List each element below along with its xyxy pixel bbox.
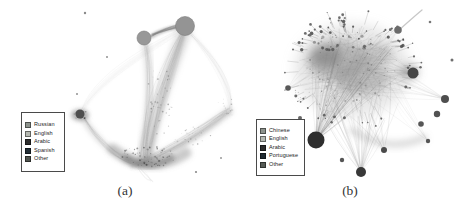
graph-node — [106, 56, 108, 58]
legend-item: English — [260, 136, 302, 142]
graph-node — [76, 93, 78, 95]
legend-label: Other — [269, 162, 283, 168]
legend-color-swatch — [260, 128, 266, 134]
network-b — [284, 10, 454, 177]
graph-node — [434, 111, 440, 117]
graph-node — [429, 21, 432, 24]
graph-node — [137, 31, 151, 45]
legend-item: Arabic — [260, 145, 302, 151]
legend-a: RussianEnglishArabicSpanishOther — [21, 112, 65, 172]
legend-label: Portuguese — [269, 153, 298, 159]
legend-color-swatch — [25, 148, 31, 154]
legend-color-swatch — [25, 139, 31, 145]
legend-item: Other — [260, 162, 302, 168]
graph-node — [408, 68, 419, 79]
legend-label: Other — [34, 156, 48, 162]
network-graphs — [0, 0, 461, 212]
graph-node — [426, 139, 430, 143]
legend-item: English — [25, 131, 62, 137]
legend-label: Chinese — [269, 128, 290, 134]
legend-label: Arabic — [34, 139, 50, 145]
legend-label: Russian — [34, 122, 55, 128]
graph-node — [76, 110, 85, 119]
graph-node — [285, 85, 291, 91]
legend-color-swatch — [260, 136, 266, 142]
caption-b: (b) — [325, 183, 375, 199]
legend-item: Russian — [25, 122, 62, 128]
legend-item: Spanish — [25, 148, 62, 154]
legend-label: English — [34, 131, 53, 137]
graph-node — [451, 59, 454, 62]
legend-label: English — [269, 136, 288, 142]
graph-node — [309, 34, 312, 37]
legend-b: ChineseEnglishArabicPortugueseOther — [256, 119, 305, 176]
legend-item: Other — [25, 156, 62, 162]
graph-node — [176, 17, 195, 36]
figure: (a) (b) RussianEnglishArabicSpanishOther… — [0, 0, 461, 212]
legend-color-swatch — [25, 156, 31, 162]
legend-label: Spanish — [34, 148, 55, 154]
graph-node — [220, 157, 222, 159]
graph-node — [418, 121, 424, 127]
graph-node — [84, 12, 86, 14]
graph-node — [441, 95, 449, 103]
graph-node — [308, 132, 325, 149]
legend-color-swatch — [260, 153, 266, 159]
legend-item: Chinese — [260, 128, 302, 134]
legend-color-swatch — [25, 131, 31, 137]
legend-label: Arabic — [269, 145, 285, 151]
legend-item: Arabic — [25, 139, 62, 145]
network-a — [71, 12, 233, 182]
caption-a: (a) — [100, 183, 150, 199]
graph-node — [394, 26, 402, 34]
graph-node — [340, 158, 344, 162]
legend-color-swatch — [260, 145, 266, 151]
graph-node — [381, 147, 387, 153]
graph-node — [195, 171, 197, 173]
graph-node — [356, 167, 366, 177]
legend-color-swatch — [25, 122, 31, 128]
legend-color-swatch — [260, 162, 266, 168]
legend-item: Portuguese — [260, 153, 302, 159]
